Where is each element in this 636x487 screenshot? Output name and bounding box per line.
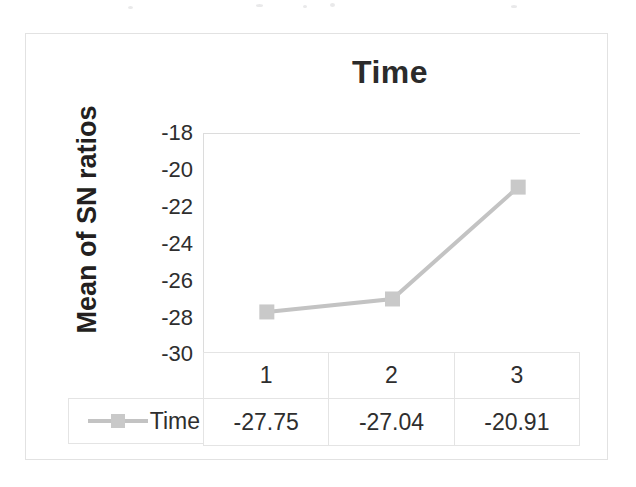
y-tick-label: -22 — [137, 196, 193, 218]
series-marker — [511, 180, 526, 195]
table-cell-value: -27.75 — [204, 399, 329, 446]
y-tick-label: -20 — [137, 159, 193, 181]
series-marker — [385, 291, 400, 306]
legend-entry-time: Time — [68, 398, 204, 444]
table-cell-category: 1 — [204, 353, 329, 399]
table-cell-value: -27.04 — [329, 399, 454, 446]
chart-title: Time — [200, 56, 580, 88]
y-tick-label: -28 — [137, 307, 193, 329]
y-tick-label: -30 — [137, 343, 193, 365]
data-table: 1 2 3 -27.75 -27.04 -20.91 — [203, 352, 580, 446]
table-row-values: -27.75 -27.04 -20.91 — [204, 399, 580, 446]
table-cell-category: 3 — [454, 353, 579, 399]
table-cell-value: -20.91 — [454, 399, 579, 446]
y-axis-title: Mean of SN ratios — [74, 70, 101, 370]
legend-marker-icon — [88, 412, 148, 430]
series-markers-time — [259, 180, 525, 320]
y-tick-label: -26 — [137, 270, 193, 292]
table-row-categories: 1 2 3 — [204, 353, 580, 399]
plot-area — [203, 133, 580, 352]
y-tick-label: -18 — [137, 122, 193, 144]
series-marker — [259, 304, 274, 319]
y-tick-label: -24 — [137, 233, 193, 255]
table-cell-category: 2 — [329, 353, 454, 399]
legend-label: Time — [150, 410, 200, 433]
series-plot — [204, 134, 581, 353]
scan-artifact-band — [0, 0, 636, 26]
